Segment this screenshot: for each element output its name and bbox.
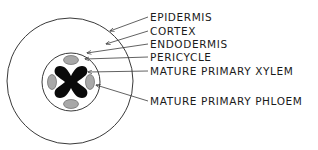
phloem-top [64, 56, 79, 65]
label-pericycle: PERICYCLE [150, 51, 212, 63]
label-phloem: MATURE PRIMARY PHLOEM [150, 95, 302, 107]
leader-pericycle [85, 57, 148, 59]
labels: EPIDERMIS CORTEX ENDODERMIS PERICYCLE MA… [150, 11, 302, 107]
phloem-left [48, 75, 57, 90]
label-cortex: CORTEX [150, 25, 196, 37]
root-cross-section-diagram: EPIDERMIS CORTEX ENDODERMIS PERICYCLE MA… [0, 0, 318, 150]
label-xylem: MATURE PRIMARY XYLEM [150, 65, 293, 77]
phloem-bottom [64, 100, 79, 109]
leader-cortex [106, 31, 148, 44]
label-epidermis: EPIDERMIS [150, 11, 212, 23]
leader-endodermis [87, 44, 148, 53]
label-endodermis: ENDODERMIS [150, 38, 228, 50]
xylem-cross [55, 66, 88, 98]
leader-xylem [88, 71, 148, 72]
leader-lines [85, 17, 148, 101]
phloem-right [86, 75, 95, 90]
leader-epidermis [110, 17, 148, 31]
leader-phloem [96, 85, 148, 101]
